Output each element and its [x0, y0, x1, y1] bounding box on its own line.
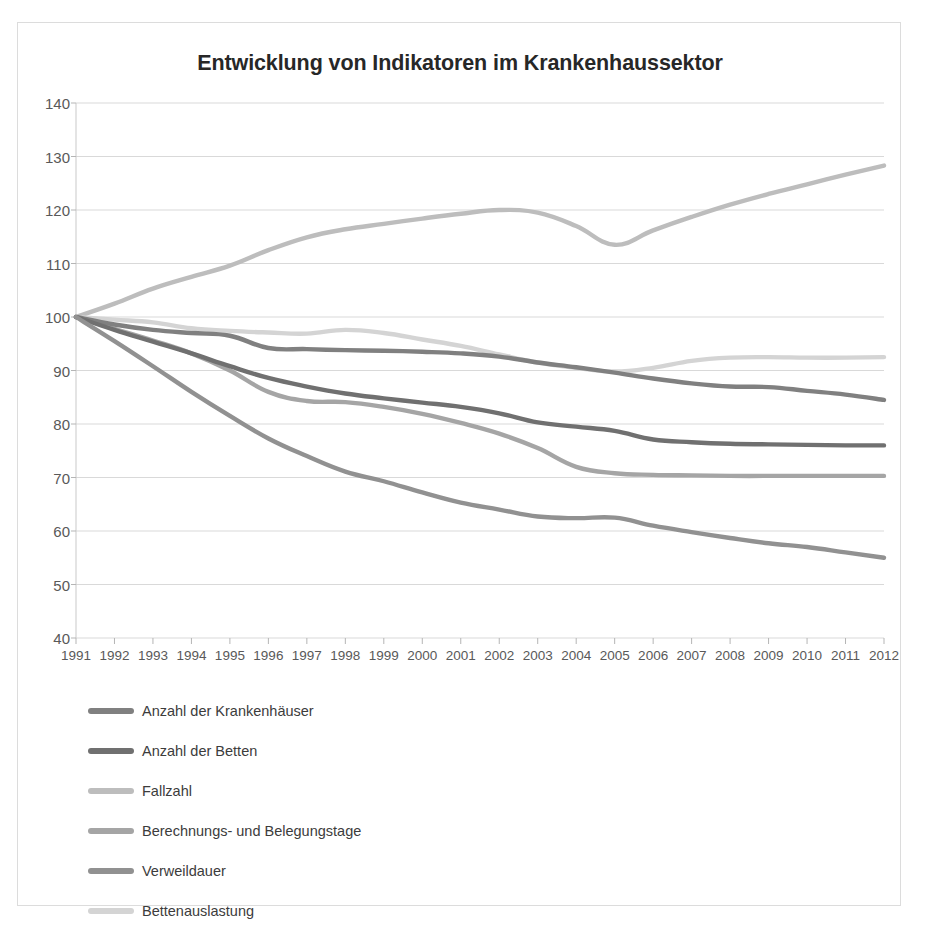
- y-axis-tick-label: 90: [26, 362, 70, 379]
- x-axis-tick-label: 1996: [253, 648, 283, 663]
- series-line: [76, 166, 884, 317]
- series-line: [76, 317, 884, 372]
- legend-color-swatch: [88, 868, 134, 874]
- y-axis-tick-label: 100: [26, 309, 70, 326]
- legend-item[interactable]: Anzahl der Krankenhäuser: [88, 691, 688, 731]
- chart-container: Entwicklung von Indikatoren im Krankenha…: [17, 22, 901, 906]
- x-axis-tick-label: 2008: [715, 648, 745, 663]
- x-axis-tick-label: 2006: [638, 648, 668, 663]
- x-axis-tick-label: 1998: [330, 648, 360, 663]
- y-axis-tick-label: 50: [26, 576, 70, 593]
- x-axis-tick-label: 2001: [446, 648, 476, 663]
- legend-color-swatch: [88, 708, 134, 714]
- y-axis-tick-label: 110: [26, 255, 70, 272]
- legend-item-label: Bettenauslastung: [142, 903, 254, 919]
- x-axis-tick-label: 2004: [561, 648, 591, 663]
- y-axis-tick-label: 60: [26, 523, 70, 540]
- legend-item[interactable]: Bettenauslastung: [88, 891, 688, 931]
- x-axis-tick-label: 2010: [792, 648, 822, 663]
- legend-color-swatch: [88, 748, 134, 754]
- y-axis-tick-label: 120: [26, 202, 70, 219]
- x-axis-tick-label: 1993: [138, 648, 168, 663]
- legend-item[interactable]: Fallzahl: [88, 771, 688, 811]
- legend-item-label: Verweildauer: [142, 863, 226, 879]
- x-axis-tick-label: 1994: [176, 648, 206, 663]
- x-axis-tick-label: 2003: [523, 648, 553, 663]
- legend-item-label: Anzahl der Krankenhäuser: [142, 703, 314, 719]
- legend-item[interactable]: Verweildauer: [88, 851, 688, 891]
- chart-legend: Anzahl der KrankenhäuserAnzahl der Bette…: [88, 691, 688, 931]
- legend-item-label: Berechnungs- und Belegungstage: [142, 823, 361, 839]
- x-axis-tick-label: 1991: [61, 648, 91, 663]
- y-axis: 140130120110100908070605040: [26, 23, 70, 907]
- legend-item[interactable]: Anzahl der Betten: [88, 731, 688, 771]
- x-axis-tick-label: 1997: [292, 648, 322, 663]
- legend-item-label: Anzahl der Betten: [142, 743, 257, 759]
- x-axis-tick-label: 2012: [869, 648, 899, 663]
- x-axis-tick-label: 1995: [215, 648, 245, 663]
- legend-item-label: Fallzahl: [142, 783, 192, 799]
- y-axis-tick-label: 40: [26, 630, 70, 647]
- x-axis-tick-label: 1999: [369, 648, 399, 663]
- y-axis-tick-label: 70: [26, 469, 70, 486]
- x-axis-tick-label: 2011: [831, 648, 860, 663]
- y-axis-tick-label: 130: [26, 148, 70, 165]
- x-axis-tick-label: 2002: [484, 648, 514, 663]
- legend-color-swatch: [88, 788, 134, 794]
- x-axis-tick-label: 2009: [754, 648, 784, 663]
- x-axis-tick-label: 2000: [407, 648, 437, 663]
- legend-item[interactable]: Berechnungs- und Belegungstage: [88, 811, 688, 851]
- gridlines: [76, 103, 884, 638]
- legend-color-swatch: [88, 828, 134, 834]
- y-axis-tick-label: 80: [26, 416, 70, 433]
- y-axis-tick-label: 140: [26, 95, 70, 112]
- x-axis: 1991199219931994199519961997199819992000…: [18, 648, 902, 670]
- x-axis-tick-label: 1992: [99, 648, 129, 663]
- x-axis-tick-label: 2007: [677, 648, 707, 663]
- x-axis-tick-label: 2005: [600, 648, 630, 663]
- legend-color-swatch: [88, 908, 134, 914]
